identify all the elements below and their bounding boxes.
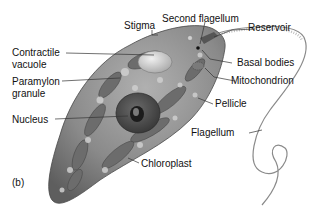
label-contractile-vacuole-line1: Contractile [12,47,60,58]
flagellum-strand [212,26,306,205]
label-contractile-vacuole-line2: vacuole [12,59,46,70]
label-paramylon-granule-line1: Paramylon [12,76,60,87]
label-mitochondrion: Mitochondrion [231,75,294,86]
label-paramylon-granule-line2: granule [12,88,45,99]
mitochondrion [192,62,204,70]
label-chloroplast: Chloroplast [141,158,192,169]
stigma [188,36,193,41]
label-basal-bodies: Basal bodies [237,57,294,68]
label-stigma: Stigma [124,20,155,31]
euglena-illustration [0,0,312,224]
label-nucleus: Nucleus [12,114,48,125]
label-second-flagellum: Second flagellum [162,13,239,24]
contractile-vacuole [138,51,172,73]
label-flagellum: Flagellum [191,127,234,138]
label-reservoir: Reservoir [248,22,291,33]
label-pellicle: Pellicle [215,98,247,109]
basal-bodies [196,46,200,50]
panel-label: (b) [12,177,24,188]
